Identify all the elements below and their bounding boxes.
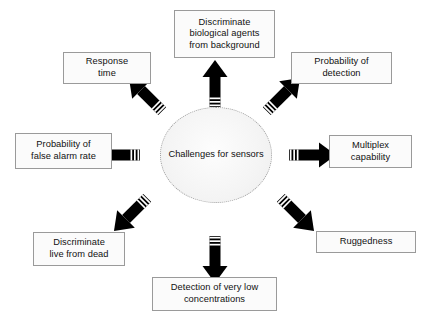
node-label-line: false alarm rate <box>31 151 96 163</box>
node-discriminate-live-from-dead: Discriminate live from dead <box>33 232 125 266</box>
hub-challenges-for-sensors: Challenges for sensors <box>160 107 272 203</box>
hub-label-line-1: Challenges for <box>168 149 228 159</box>
node-ruggedness: Ruggedness <box>316 231 416 253</box>
hub-label-line-2: sensors <box>231 149 264 159</box>
node-multiplex-capability: Multiplex capability <box>329 135 412 168</box>
node-label-line: Probability of <box>31 139 96 151</box>
node-label-line: Detection of very low <box>171 282 258 294</box>
node-label-line: live from dead <box>49 249 108 261</box>
arrow-north <box>203 60 228 107</box>
node-discriminate-biological-agents: Discriminate biological agents from back… <box>174 10 275 58</box>
node-label-line: Response <box>86 56 128 68</box>
node-label-line: biological agents <box>189 28 260 40</box>
node-label-line: Ruggedness <box>340 236 393 248</box>
node-label-line: concentrations <box>171 294 258 306</box>
node-label-line: from background <box>189 40 260 52</box>
node-probability-of-detection: Probability of detection <box>291 52 392 84</box>
node-label-line: detection <box>314 68 368 80</box>
hub-label: Challenges for sensors <box>168 149 263 161</box>
node-label-line: Probability of <box>314 56 368 68</box>
diagram-canvas: Challenges for sensors Discriminate biol… <box>0 0 434 320</box>
node-label-line: capability <box>351 152 390 164</box>
node-label-line: Discriminate <box>189 17 260 29</box>
node-response-time: Response time <box>63 52 151 84</box>
node-probability-of-false-alarm-rate: Probability of false alarm rate <box>15 133 112 169</box>
arrow-south <box>203 236 228 283</box>
node-label-line: Discriminate <box>49 237 108 249</box>
node-detection-of-very-low-concentrations: Detection of very low concentrations <box>152 277 277 311</box>
node-label-line: time <box>86 68 128 80</box>
node-label-line: Multiplex <box>351 140 390 152</box>
